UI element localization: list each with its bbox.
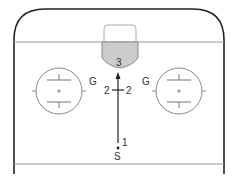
rink-boards [14,9,224,174]
right-goalie-label: G [142,76,150,87]
rink-diagram: 3 G G 2 2 1 S [0,0,240,180]
start-number: 1 [122,137,128,148]
left-faceoff-circle [32,68,86,114]
arrow-head-icon [116,72,121,79]
goal-net [104,25,136,42]
start-label: S [114,151,121,162]
start-puck [117,147,120,150]
right-pass-number: 2 [126,85,132,96]
left-pass-number: 2 [104,85,110,96]
crease-number: 3 [116,57,122,68]
right-faceoff-circle [152,68,206,114]
left-goalie-label: G [89,76,97,87]
